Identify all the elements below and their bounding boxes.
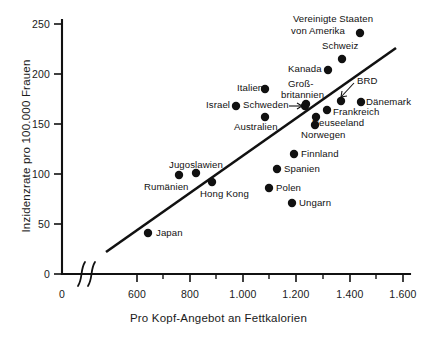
label-norwegen: Norwegen bbox=[301, 130, 346, 141]
point-polen bbox=[265, 184, 273, 192]
point-japan bbox=[144, 229, 152, 237]
label-jugoslawien: Jugoslawien bbox=[169, 160, 223, 171]
label-australien: Australien bbox=[234, 122, 278, 133]
x-tick-label-600: 600 bbox=[117, 288, 157, 300]
point-spanien bbox=[273, 165, 281, 173]
point-daenemark bbox=[357, 98, 365, 106]
label-schweiz: Schweiz bbox=[322, 41, 358, 52]
label-hong-kong: Hong Kong bbox=[200, 189, 249, 200]
y-axis-title: Inzidenzrate pro 100.000 Frauen bbox=[20, 26, 32, 266]
x-tick-label-0: 0 bbox=[46, 288, 78, 300]
scatter-chart-figure: 250 200 150 100 50 0 0 600 800 1.000 1.2… bbox=[0, 0, 437, 340]
x-tick-label-800: 800 bbox=[170, 288, 210, 300]
point-finnland bbox=[290, 150, 298, 158]
trend-line bbox=[106, 48, 396, 252]
point-australien bbox=[261, 113, 269, 121]
label-spanien: Spanien bbox=[284, 164, 320, 175]
x-tick-label-1200: 1.200 bbox=[274, 288, 318, 300]
label-vereinigte-staaten-line1: Vereinigte Staaten bbox=[285, 14, 381, 25]
label-finnland: Finnland bbox=[301, 149, 339, 160]
label-japan: Japan bbox=[156, 228, 183, 239]
label-rumaenien: Rumänien bbox=[144, 182, 189, 193]
point-vereinigte-staaten bbox=[356, 29, 364, 37]
point-ungarn bbox=[288, 199, 296, 207]
label-vereinigte-staaten-line2: von Amerika bbox=[285, 26, 351, 37]
x-tick-label-1400: 1.400 bbox=[328, 288, 372, 300]
point-schweden bbox=[301, 102, 309, 110]
label-neuseeland: Neuseeland bbox=[312, 118, 364, 129]
label-grossbritannien-line1: Groß- bbox=[288, 79, 314, 90]
point-rumaenien bbox=[175, 171, 183, 179]
point-schweiz bbox=[338, 55, 346, 63]
label-kanada: Kanada bbox=[288, 64, 322, 75]
point-hong-kong bbox=[208, 178, 216, 186]
label-brd: BRD bbox=[357, 76, 378, 87]
label-ungarn: Ungarn bbox=[299, 198, 331, 209]
x-axis-title: Pro Kopf-Angebot an Fettkalorien bbox=[0, 312, 437, 324]
point-israel bbox=[232, 102, 240, 110]
point-brd bbox=[337, 97, 345, 105]
label-israel: Israel bbox=[206, 100, 230, 111]
label-polen: Polen bbox=[276, 183, 301, 194]
x-tick-label-1000: 1.000 bbox=[221, 288, 265, 300]
x-tick-label-1600: 1.600 bbox=[381, 288, 425, 300]
point-frankreich bbox=[323, 106, 331, 114]
label-italien: Italien bbox=[237, 83, 263, 94]
label-frankreich: Frankreich bbox=[333, 107, 379, 118]
y-tick-label-0: 0 bbox=[18, 268, 50, 280]
label-schweden: Schweden bbox=[243, 100, 289, 111]
point-kanada bbox=[324, 66, 332, 74]
